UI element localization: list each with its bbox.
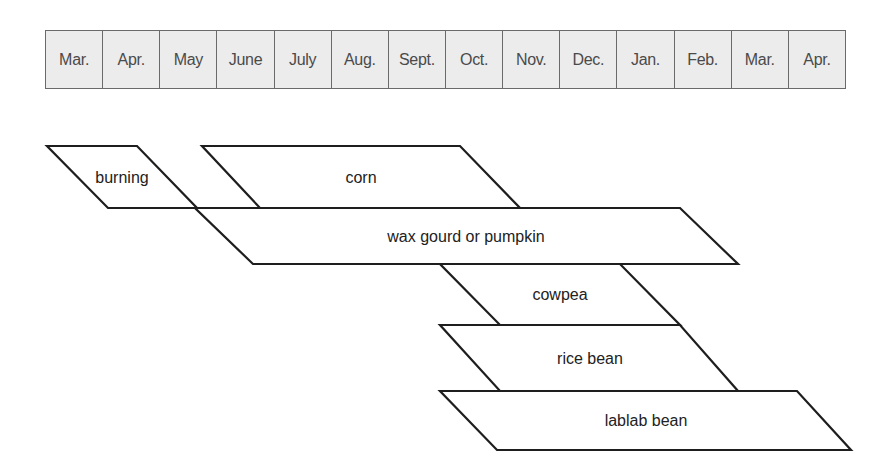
- crop-rotation-diagram: wax gourd or pumpkin burning corn cowpea…: [0, 0, 889, 474]
- phase-rice-bean: rice bean: [440, 325, 738, 391]
- phase-wax-gourd: wax gourd or pumpkin: [195, 208, 738, 264]
- rice-bean-label: rice bean: [557, 350, 623, 367]
- phase-lablab-bean: lablab bean: [440, 391, 851, 450]
- phase-cowpea: cowpea: [440, 264, 680, 325]
- lablab-bean-label: lablab bean: [605, 412, 688, 429]
- corn-label: corn: [345, 169, 376, 186]
- wax-gourd-label: wax gourd or pumpkin: [386, 228, 544, 245]
- cowpea-label: cowpea: [532, 286, 587, 303]
- phase-corn: corn: [202, 146, 520, 208]
- burning-label: burning: [95, 169, 148, 186]
- phase-burning: burning: [47, 146, 197, 208]
